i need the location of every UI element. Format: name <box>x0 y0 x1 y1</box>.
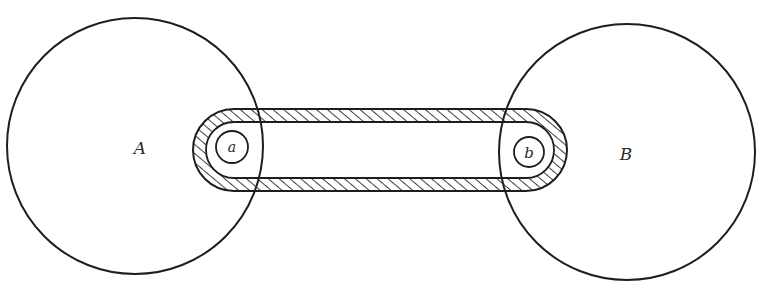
label-pulley-a: a <box>228 139 236 155</box>
belt <box>0 0 763 288</box>
label-wheel-a: A <box>132 138 146 158</box>
label-wheel-b: B <box>619 144 633 164</box>
label-pulley-b: b <box>524 144 534 162</box>
belt-drive-diagram: A B a b <box>0 0 763 288</box>
